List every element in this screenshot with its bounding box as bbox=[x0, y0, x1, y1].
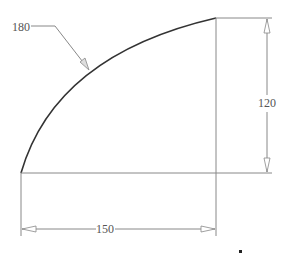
width-dimension: 150 bbox=[22, 222, 215, 236]
arc-length-label: 180 bbox=[12, 20, 30, 34]
arrow-right-icon bbox=[201, 226, 215, 232]
height-dimension: 120 bbox=[258, 19, 276, 172]
arrow-up-icon bbox=[264, 19, 270, 33]
arc-curve bbox=[21, 18, 216, 173]
height-label: 120 bbox=[258, 96, 276, 110]
width-label: 150 bbox=[96, 222, 114, 236]
arrow-left-icon bbox=[22, 226, 36, 232]
technical-drawing: 120 150 180 bbox=[0, 0, 291, 268]
arc-length-leader: 180 bbox=[12, 20, 89, 70]
marker-dot bbox=[239, 250, 242, 253]
arrow-down-icon bbox=[264, 158, 270, 172]
